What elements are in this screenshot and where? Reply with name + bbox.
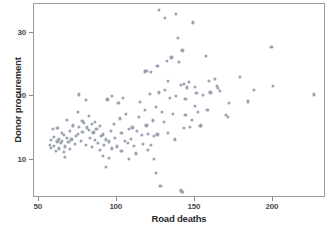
data-point [98,149,101,152]
data-point [118,117,121,120]
data-point [125,112,128,115]
data-point [312,93,315,96]
data-point [164,16,167,19]
data-point [193,85,196,88]
x-tick-label: 100 [109,202,122,211]
data-point [92,131,95,134]
y-tick [29,32,33,33]
data-point [192,21,195,24]
data-point [62,151,65,154]
data-point [84,98,87,101]
data-point [109,130,112,133]
data-point [114,137,117,140]
data-point [143,108,146,111]
data-point [187,81,190,84]
data-point [67,140,70,143]
data-point [171,112,174,115]
data-point [115,145,118,148]
data-point [98,125,101,128]
data-point [61,139,64,142]
data-point [159,184,162,187]
x-axis-label: Road deaths [33,213,325,224]
data-point [51,128,54,131]
data-point [101,154,104,157]
data-point [96,141,99,144]
data-point [95,127,98,130]
x-tick-label: 150 [187,202,200,211]
data-point [110,147,113,150]
data-point [103,143,106,146]
data-point [189,125,192,128]
data-point [112,122,115,125]
data-point [73,142,76,145]
data-point [226,115,229,118]
data-point [181,190,184,193]
data-point [53,144,56,147]
data-point [270,45,273,48]
data-point [137,115,140,118]
data-point [131,126,134,129]
data-point [107,156,110,159]
scatter-plot-figure: 50100150200 102030 Road deaths Donor pro… [0,0,336,232]
data-point [129,137,132,140]
data-point [140,133,143,136]
data-point [126,142,129,145]
data-point [160,111,163,114]
data-point [182,82,185,85]
data-point [139,100,142,103]
data-point [181,49,184,52]
data-point [196,110,199,113]
data-point [87,114,90,117]
data-point [107,140,110,143]
data-point [195,91,198,94]
data-point [239,75,242,78]
data-point [218,89,221,92]
data-point [176,36,179,39]
data-point [146,132,149,135]
data-point [81,130,84,133]
data-point [157,91,160,94]
data-point [84,144,87,147]
data-point [121,96,124,99]
data-point [175,12,178,15]
data-point [82,121,85,124]
data-point [65,118,68,121]
data-point [271,84,274,87]
data-point [53,135,56,138]
data-point [209,91,212,94]
data-point [54,149,57,152]
data-point [148,92,151,95]
data-point [150,144,153,147]
data-point [64,156,67,159]
data-point [168,97,171,100]
data-point [135,129,138,132]
data-point [154,171,157,174]
data-point [76,132,79,135]
data-point [185,86,188,89]
data-point [134,152,137,155]
data-point [132,144,135,147]
data-point [184,97,187,100]
x-tick-label: 200 [266,202,279,211]
data-point [165,59,168,62]
data-point [76,110,79,113]
x-tick [272,197,273,201]
data-point [56,126,59,129]
data-point [87,128,90,131]
data-point [104,165,107,168]
data-point [50,139,53,142]
data-point [106,98,109,101]
data-point [145,124,148,127]
data-point [64,145,67,148]
data-point [70,138,73,141]
data-point [65,137,68,140]
data-point [175,95,178,98]
data-point [154,105,157,108]
data-point [110,94,113,97]
data-point [71,124,74,127]
data-point [204,54,207,57]
data-point [214,77,217,80]
data-point [89,136,92,139]
data-point [78,93,81,96]
x-tick-label: 50 [33,202,42,211]
